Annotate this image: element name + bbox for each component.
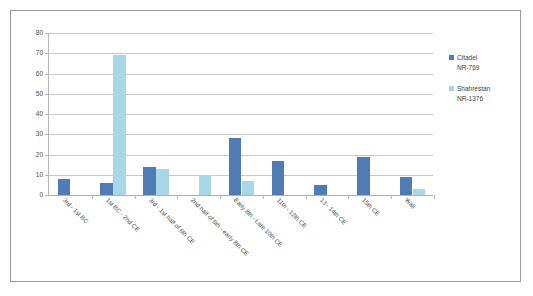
y-axis-label: 70 (36, 50, 43, 57)
legend-label-line1: Shahrestan (457, 85, 490, 92)
legend-label-line1: Citadel (457, 54, 477, 61)
bar-1-4 (242, 181, 255, 195)
y-axis-label: 10 (36, 172, 43, 179)
y-axis-label: 30 (36, 131, 43, 138)
x-axis-labels: 3rd - 1st BC1st BC - 2nd CE3rd - 1st hal… (48, 197, 433, 277)
bar-group (177, 33, 220, 195)
legend-entry-0[interactable]: CitadelNR-769 (449, 53, 515, 73)
bar-0-1 (100, 183, 113, 195)
legend-swatch-icon (449, 86, 454, 91)
bar-1-1 (113, 55, 126, 195)
legend-swatch-icon (449, 55, 454, 60)
legend-label: ShahrestanNR-1376 (457, 84, 490, 104)
y-axis-label: 0 (39, 192, 43, 199)
x-axis-label-4: Early 8th - Late 10th CE (233, 197, 284, 248)
legend-label-line2: NR-769 (457, 63, 479, 73)
x-axis-label-6: 13 - 14th CE (318, 197, 347, 226)
legend-entry-1[interactable]: ShahrestanNR-1376 (449, 84, 515, 104)
y-tick-mark-0 (45, 195, 49, 196)
bar-group (220, 33, 263, 195)
bar-0-8 (400, 177, 413, 195)
bar-group (306, 33, 349, 195)
y-axis-label: 20 (36, 151, 43, 158)
bar-1-8 (413, 189, 426, 195)
y-axis-label: 80 (36, 30, 43, 37)
x-axis-label-0: 3rd - 1st BC (62, 197, 90, 225)
bars-layer (49, 33, 433, 195)
chart-legend: CitadelNR-769ShahrestanNR-1376 (449, 53, 515, 115)
x-axis-label-5: 11th - 12th CE (275, 197, 307, 229)
bar-group (92, 33, 135, 195)
bar-group (135, 33, 178, 195)
bar-0-7 (357, 157, 370, 195)
bar-1-3 (199, 175, 212, 195)
bar-group (263, 33, 306, 195)
bar-0-2 (143, 167, 156, 195)
chart-frame: 01020304050607080 3rd - 1st BC1st BC - 2… (10, 10, 521, 282)
plot-inner: 01020304050607080 (48, 33, 433, 195)
x-tick-mark (434, 195, 435, 199)
x-axis-label-2: 3rd - 1st half of 6th CE (147, 197, 195, 245)
gridline-0 (49, 195, 433, 196)
y-axis-label: 40 (36, 111, 43, 118)
y-axis-label: 60 (36, 70, 43, 77)
y-axis-label: 50 (36, 91, 43, 98)
bar-group (391, 33, 434, 195)
legend-label: CitadelNR-769 (457, 53, 479, 73)
x-axis-label-7: 15th CE (361, 197, 381, 217)
x-axis-label-8: Wall (404, 197, 417, 210)
bar-0-4 (229, 138, 242, 195)
bar-0-0 (58, 179, 71, 195)
legend-label-line2: NR-1376 (457, 94, 490, 104)
bar-0-6 (314, 185, 327, 195)
bar-group (348, 33, 391, 195)
plot-area: 01020304050607080 (48, 33, 433, 195)
bar-1-2 (156, 169, 169, 195)
bar-0-5 (272, 161, 285, 195)
x-axis-label-1: 1st BC - 2nd CE (104, 197, 140, 233)
bar-group (49, 33, 92, 195)
